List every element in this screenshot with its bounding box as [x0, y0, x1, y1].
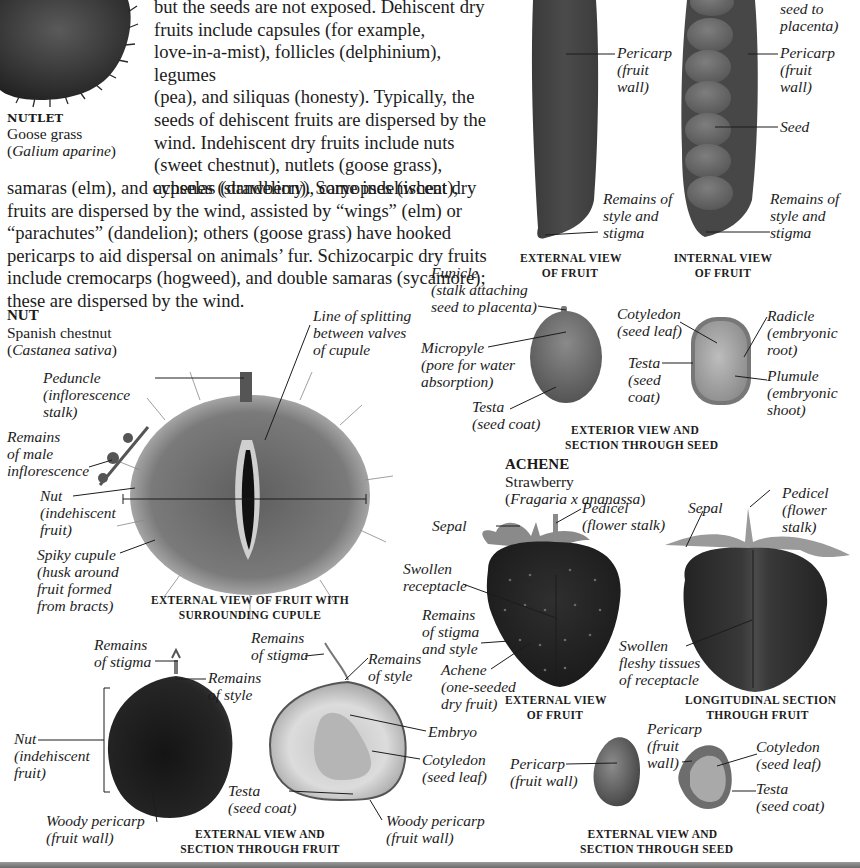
- label-sepal-left: Sepal: [432, 517, 466, 534]
- intro-line: love-in-a-mist), follicles (delphinium),…: [154, 41, 494, 86]
- label-nut-whole: Nut (indehiscent fruit): [14, 730, 90, 781]
- label-funicle: Funicle (stalk attaching seed to placent…: [431, 264, 537, 315]
- intro-line: fruits include capsules (for example,: [154, 19, 494, 42]
- label-cotyledon-achene: Cotyledon (seed leaf): [756, 738, 821, 772]
- label-funicle-tail: seed to placenta): [780, 0, 839, 34]
- intro-line: pericarps to aid dispersal on animals’ f…: [7, 245, 497, 268]
- achene-seed-exterior-photo: [594, 737, 640, 806]
- label-testa-section: Testa (seed coat): [628, 354, 661, 405]
- label-style-stigma-internal: Remains of style and stigma: [770, 190, 839, 241]
- label-nut-burr: Nut (indehiscent fruit): [40, 487, 116, 538]
- fruit-type-label: ACHENE: [505, 456, 645, 473]
- caption-pea-seed: EXTERIOR VIEW AND SECTION THROUGH SEED: [565, 423, 705, 453]
- pea-seed-exterior-photo: [530, 306, 602, 403]
- caption-strawberry-section: LONGITUDINAL SECTION THROUGH FRUIT: [685, 693, 830, 723]
- latin-name: (Castanea sativa): [7, 341, 117, 358]
- label-style-right: Remains of style: [368, 650, 421, 684]
- label-embryo: Embryo: [428, 723, 477, 740]
- label-stigma-style-strawberry: Remains of stigma and style: [422, 606, 479, 657]
- label-woody-pericarp-right: Woody pericarp (fruit wall): [386, 812, 485, 846]
- fruit-type-label: NUTLET: [7, 111, 116, 125]
- label-stigma-right: Remains of stigma: [251, 629, 308, 663]
- intro-line: wind. Indehiscent dry fruits include nut…: [154, 132, 494, 155]
- label-stigma-left: Remains of stigma: [94, 636, 151, 670]
- label-seed: Seed: [780, 118, 809, 135]
- intro-line: “parachutes” (dandelion); others (goose …: [7, 222, 497, 245]
- nut-specimen-title: NUT Spanish chestnut (Castanea sativa): [7, 307, 117, 358]
- fruit-type-label: NUT: [7, 307, 117, 324]
- nutlet-photo: [0, 0, 138, 107]
- label-testa-chestnut: Testa (seed coat): [228, 782, 296, 816]
- intro-line: include cremocarps (hogweed), and double…: [7, 267, 497, 290]
- label-testa-achene: Testa (seed coat): [756, 780, 824, 814]
- caption-chestnut-burr: EXTERNAL VIEW OF FRUIT WITH SURROUNDING …: [150, 593, 350, 623]
- label-pericarp-external: Pericarp (fruit wall): [617, 44, 672, 95]
- label-cotyledon-chestnut: Cotyledon (seed leaf): [422, 751, 487, 785]
- common-name: Goose grass: [7, 125, 116, 142]
- pea-pod-external-photo: [532, 0, 598, 239]
- label-pericarp-internal: Pericarp (fruit wall): [780, 44, 835, 95]
- label-pericarp-achene-section: Pericarp (fruit wall): [647, 720, 702, 771]
- intro-line: seeds of dehiscent fruits are dispersed …: [154, 109, 494, 132]
- label-spiky-cupule: Spiky cupule (husk around fruit formed f…: [37, 546, 119, 614]
- label-sepal-right: Sepal: [688, 499, 722, 516]
- label-cotyledon: Cotyledon (seed leaf): [617, 305, 682, 339]
- intro-line: but the seeds are not exposed. Dehiscent…: [154, 0, 494, 19]
- label-style-stigma-external: Remains of style and stigma: [603, 190, 672, 241]
- label-line-of-splitting: Line of splitting between valves of cupu…: [313, 307, 411, 358]
- caption-strawberry-external: EXTERNAL VIEW OF FRUIT: [505, 693, 605, 723]
- chestnut-burr-photo: [98, 372, 393, 620]
- label-woody-pericarp-left: Woody pericarp (fruit wall): [46, 812, 145, 846]
- caption-achene-seed: EXTERNAL VIEW AND SECTION THROUGH SEED: [580, 827, 725, 857]
- latin-name: (Galium aparine): [7, 142, 116, 159]
- intro-paragraph-wide: samaras (elm), and cypselas (dandelion).…: [7, 177, 497, 313]
- caption-pod-internal: INTERNAL VIEW OF FRUIT: [668, 251, 778, 281]
- nutlet-specimen-title: NUTLET Goose grass (Galium aparine): [7, 111, 116, 159]
- label-peduncle: Peduncle (inflorescence stalk): [43, 369, 130, 420]
- label-plumule: Plumule (embryonic shoot): [767, 367, 838, 418]
- label-male-inflorescence: Remains of male inflorescence: [7, 428, 89, 479]
- label-pericarp-achene-exterior: Pericarp (fruit wall): [510, 755, 578, 789]
- intro-line: (pea), and siliquas (honesty). Typically…: [154, 86, 494, 109]
- label-style-left: Remains of style: [208, 669, 261, 703]
- intro-line: (sweet chestnut), nutlets (goose grass),: [154, 154, 494, 177]
- intro-line: fruits are dispersed by the wind, assist…: [7, 200, 497, 223]
- label-radicle: Radicle (embryonic root): [767, 307, 838, 358]
- label-swollen-receptacle: Swollen receptacle: [403, 560, 467, 594]
- label-pedicel-left: Pedicel (flower stalk): [582, 499, 665, 533]
- label-micropyle: Micropyle (pore for water absorption): [421, 339, 515, 390]
- intro-paragraph-narrow: but the seeds are not exposed. Dehiscent…: [154, 0, 494, 199]
- label-swollen-fleshy-tissues: Swollen fleshy tissues of receptacle: [619, 637, 700, 688]
- intro-line: samaras (elm), and cypselas (dandelion).…: [7, 177, 497, 200]
- label-testa-exterior: Testa (seed coat): [472, 398, 540, 432]
- pea-seed-section-photo: [691, 317, 751, 405]
- label-pedicel-right: Pedicel (flower stalk): [782, 484, 828, 535]
- common-name: Strawberry: [505, 473, 645, 490]
- page-bottom-edge: [0, 862, 860, 868]
- caption-chestnut-section: EXTERNAL VIEW AND SECTION THROUGH FRUIT: [170, 827, 350, 857]
- pea-pod-internal-photo: [681, 0, 757, 237]
- common-name: Spanish chestnut: [7, 324, 117, 341]
